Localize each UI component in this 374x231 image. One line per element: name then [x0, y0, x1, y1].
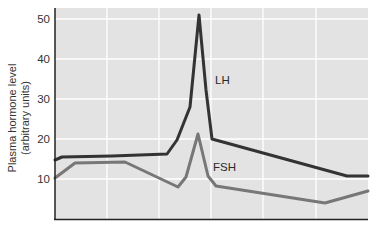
y-tick-label: 30 — [37, 93, 50, 105]
hormone-line-chart: 1020304050 LHFSH Plasma hormone level (a… — [0, 0, 374, 231]
y-tick-label: 20 — [37, 133, 50, 145]
series-label-lh: LH — [215, 74, 230, 86]
chart-canvas: 1020304050 LHFSH Plasma hormone level (a… — [0, 0, 374, 231]
y-axis-title-line1: Plasma hormone level — [6, 64, 18, 173]
y-tick-label: 10 — [37, 173, 50, 185]
series-label-fsh: FSH — [213, 161, 236, 173]
y-axis-title: Plasma hormone level (arbitrary units) — [6, 64, 31, 173]
y-axis-title-line2: (arbitrary units) — [19, 81, 31, 155]
y-tick-label: 50 — [37, 13, 50, 25]
y-tick-labels: 1020304050 — [37, 13, 50, 185]
y-tick-label: 40 — [37, 53, 50, 65]
